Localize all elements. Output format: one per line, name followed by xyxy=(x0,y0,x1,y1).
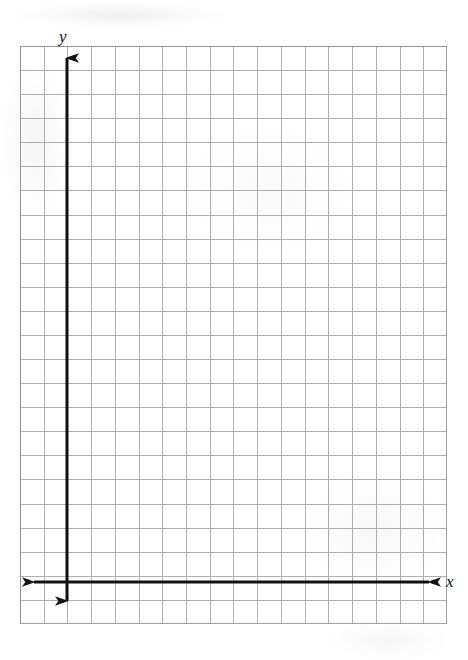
paper-texture-blotch xyxy=(330,620,450,660)
coordinate-grid xyxy=(20,46,447,624)
x-axis-label: x xyxy=(446,573,454,590)
grid-border xyxy=(20,46,447,624)
y-axis-label: y xyxy=(59,28,67,45)
paper-texture-blotch xyxy=(10,2,230,28)
